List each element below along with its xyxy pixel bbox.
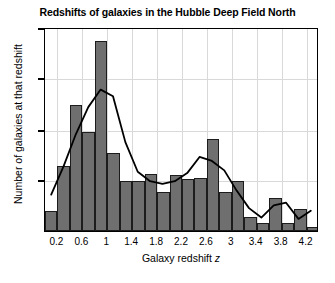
- x-axis-tick-label: 4.2: [291, 236, 321, 247]
- smoothed-trend-line: [45, 29, 317, 231]
- x-axis-title-variable: z: [215, 252, 220, 264]
- chart-title: Redshifts of galaxies in the Hubble Deep…: [0, 6, 335, 18]
- x-axis-title-text: Galaxy redshift: [142, 252, 215, 264]
- chart-figure: Redshifts of galaxies in the Hubble Deep…: [0, 0, 335, 283]
- trend-line-path: [51, 90, 311, 219]
- x-axis-title: Galaxy redshift z: [44, 252, 318, 264]
- plot-area: [44, 28, 318, 232]
- y-axis-title: Number of galaxies at that redshift: [12, 24, 24, 224]
